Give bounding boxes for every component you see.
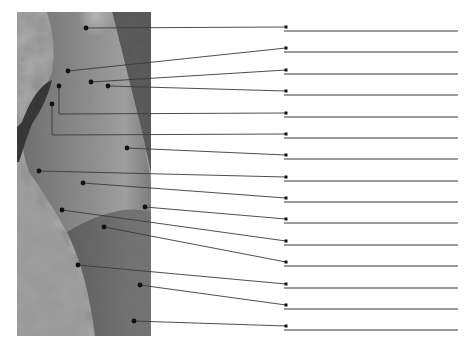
anchor-dot <box>57 84 62 89</box>
leader-line <box>78 265 286 284</box>
anchor-dot <box>37 169 42 174</box>
label-blank-14[interactable] <box>284 295 458 309</box>
label-blank-12[interactable] <box>284 252 458 266</box>
label-blank-15[interactable] <box>284 316 458 330</box>
label-blank-6[interactable] <box>284 124 458 138</box>
leader-line <box>83 183 286 198</box>
anchor-dot <box>76 263 81 268</box>
anchor-dot <box>60 208 65 213</box>
label-blank-1[interactable] <box>284 17 458 31</box>
leader-line <box>145 207 286 219</box>
label-blank-9[interactable] <box>284 188 458 202</box>
anchor-dot <box>102 225 107 230</box>
leader-line <box>104 227 286 262</box>
labeling-diagram <box>0 0 472 351</box>
leader-line <box>108 86 286 91</box>
label-blank-8[interactable] <box>284 167 458 181</box>
leader-line <box>39 171 286 177</box>
leader-line <box>52 104 286 135</box>
anchor-dot <box>84 26 89 31</box>
anchor-dot <box>66 69 71 74</box>
leader-line <box>127 148 286 155</box>
label-blank-10[interactable] <box>284 209 458 223</box>
leader-line <box>86 27 286 28</box>
label-blank-7[interactable] <box>284 145 458 159</box>
leader-line <box>91 70 286 82</box>
anchor-dot <box>125 146 130 151</box>
label-blank-3[interactable] <box>284 60 458 74</box>
label-blank-5[interactable] <box>284 103 458 117</box>
label-blank-13[interactable] <box>284 274 458 288</box>
leader-line <box>134 321 286 326</box>
label-blank-11[interactable] <box>284 231 458 245</box>
leader-line <box>140 285 286 305</box>
leader-line <box>62 210 286 241</box>
leader-line <box>68 48 286 71</box>
anchor-dot <box>143 205 148 210</box>
anchor-dot <box>89 80 94 85</box>
anchor-dot <box>81 181 86 186</box>
label-blank-2[interactable] <box>284 38 458 52</box>
anchor-dot <box>50 102 55 107</box>
anchor-dot <box>106 84 111 89</box>
label-blank-4[interactable] <box>284 81 458 95</box>
anchor-dot <box>132 319 137 324</box>
anchor-dot <box>138 283 143 288</box>
